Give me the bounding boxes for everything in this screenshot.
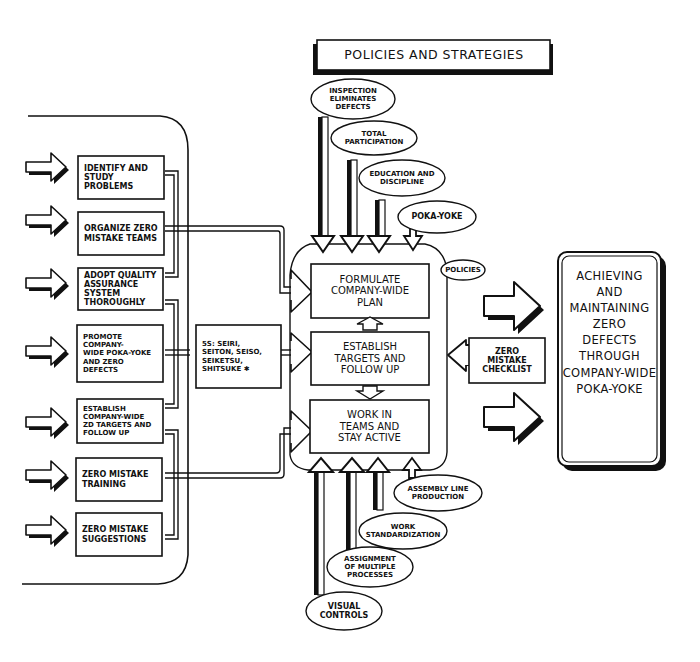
- goal-label: Achieving and maintaining zero defects t…: [560, 268, 659, 423]
- step-work-in-teams: Work in teams and stay active: [310, 400, 429, 453]
- arrow-up-small: [357, 317, 383, 330]
- left-item-suggestions: Zero mistake suggestions: [76, 513, 162, 556]
- input-total-participation: Total participation: [331, 121, 417, 155]
- left-item-establish-zd: Establish company-wide ZD targets and fo…: [77, 399, 163, 443]
- arrow-down-small: [357, 386, 383, 399]
- checklist-label: Zero mistake checklist: [469, 338, 545, 383]
- step-formulate-plan: Formulate company-wide plan: [311, 264, 429, 318]
- left-item-training: Zero mistake training: [76, 458, 162, 501]
- input-work-standardization: Work standardization: [359, 513, 447, 549]
- big-arrow-bottom: [484, 393, 544, 445]
- policies-tag: Policies: [441, 260, 485, 280]
- left-item-promote: Promote company- wide Poka-Yoke and zero…: [77, 325, 163, 382]
- input-poka-yoke: Poka-Yoke: [398, 201, 476, 233]
- left-input-arrows: [26, 153, 69, 547]
- big-arrow-top: [484, 282, 544, 334]
- input-education: Education and discipline: [359, 160, 445, 196]
- title-label: Policies and Strategies: [318, 41, 550, 70]
- left-item-organize: Organize zero mistake teams: [78, 212, 164, 255]
- input-visual-controls: Visual controls: [306, 592, 382, 630]
- input-assignment: Assignment of multiple processes: [327, 547, 413, 587]
- left-item-adopt: Adopt quality assurance system thoroughl…: [78, 268, 163, 310]
- five-s-label: 5S: Seiri, Seiton, Seiso, Seiketsu, Shit…: [196, 325, 281, 388]
- step-establish-targets: Establish targets and follow up: [311, 332, 429, 385]
- input-inspection: Inspection eliminates defects: [311, 79, 395, 119]
- input-assembly-line: Assembly line production: [394, 475, 482, 511]
- left-item-identify: Identify and study problems: [78, 156, 164, 199]
